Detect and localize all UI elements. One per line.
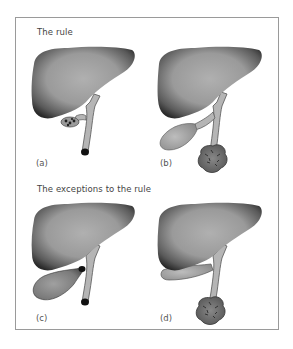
cystic-stone-icon — [79, 266, 86, 272]
gallbladder-icon — [160, 124, 197, 151]
gallbladder-icon — [33, 268, 84, 300]
distal-stone-icon — [81, 299, 89, 306]
panel-label-d: (d) — [160, 313, 172, 323]
liver-icon — [158, 203, 262, 271]
liver-icon — [158, 47, 262, 119]
tumour-icon — [196, 297, 225, 325]
panel-label-c: (c) — [36, 313, 47, 323]
panel-label-b: (b) — [160, 158, 172, 168]
panel-c-diagram — [28, 200, 138, 315]
liver-icon — [32, 47, 135, 119]
panel-a-diagram — [28, 44, 138, 159]
cystic-duct-icon — [195, 112, 215, 130]
panel-label-a: (a) — [36, 158, 48, 168]
panel-b-diagram — [155, 44, 270, 174]
liver-icon — [32, 203, 135, 271]
gallbladder-stones-icon — [61, 117, 79, 127]
section-heading-exceptions: The exceptions to the rule — [37, 184, 151, 194]
panel-d-diagram — [155, 200, 270, 330]
tumour-icon — [198, 145, 227, 173]
distal-stone-icon — [81, 149, 89, 156]
section-heading-rule: The rule — [37, 27, 73, 37]
